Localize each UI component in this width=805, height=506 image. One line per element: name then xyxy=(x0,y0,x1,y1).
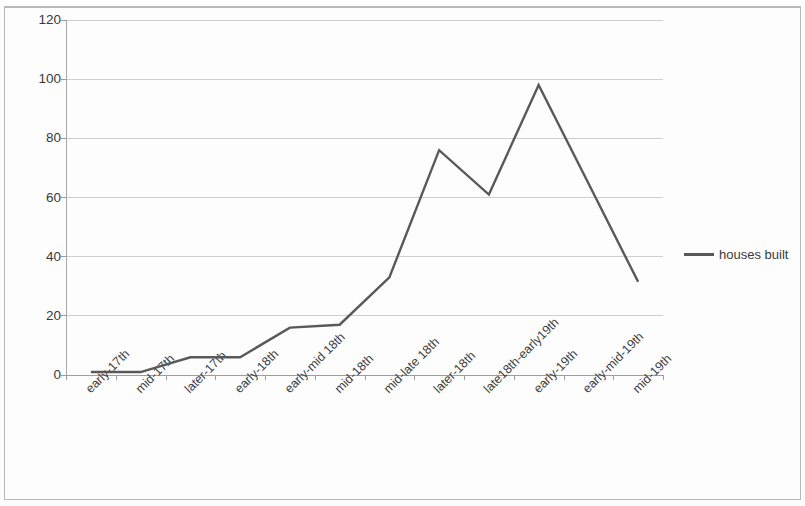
legend-label-houses-built: houses built xyxy=(716,247,788,262)
chart-legend: houses built xyxy=(684,247,788,262)
line-chart: 120100806040200 early-17thmid-17thlater-… xyxy=(0,0,805,506)
chart-page: 120100806040200 early-17thmid-17thlater-… xyxy=(0,0,805,506)
legend-swatch-houses-built xyxy=(684,253,714,256)
series-houses-built xyxy=(66,20,663,375)
